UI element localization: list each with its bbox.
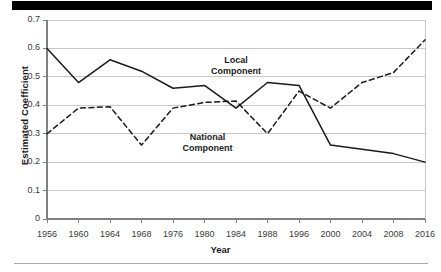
y-tick-label: 0.2 — [6, 156, 40, 166]
y-tick-label: 0.4 — [6, 99, 40, 109]
gridlines-group — [47, 20, 425, 219]
footer-rule — [14, 263, 428, 264]
chart-plot-area: Estimated Coefficient 0.70.60.50.40.30.2… — [0, 10, 441, 262]
y-tick-label: 0.6 — [6, 42, 40, 52]
y-tick-label: 0.5 — [6, 71, 40, 81]
y-tick-label: 0 — [6, 213, 40, 223]
annotation-local-line2: Component — [186, 66, 286, 77]
axis-lines-group — [47, 20, 425, 219]
black-header-bar — [12, 1, 432, 10]
annotation-national-line1: National — [150, 132, 265, 143]
y-tick-label: 0.3 — [6, 128, 40, 138]
y-tick-label: 0.1 — [6, 185, 40, 195]
y-tick-label: 0.7 — [6, 14, 40, 24]
tick-marks-group — [43, 20, 425, 223]
x-axis-title: Year — [0, 244, 441, 255]
annotation-national-line2: Component — [150, 143, 265, 154]
annotation-national-component: National Component — [150, 132, 265, 154]
annotation-local-component: Local Component — [186, 55, 286, 77]
x-tick-label: 2016 — [405, 229, 441, 239]
figure-container: Estimated Coefficient 0.70.60.50.40.30.2… — [0, 0, 441, 272]
annotation-local-line1: Local — [186, 55, 286, 66]
